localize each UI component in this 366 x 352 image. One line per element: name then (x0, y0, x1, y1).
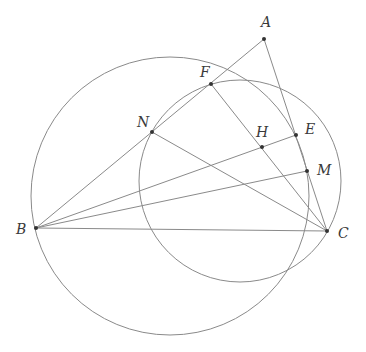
point-C (325, 229, 329, 233)
label-F: F (199, 64, 211, 80)
label-M: M (316, 162, 332, 178)
segment-NC (152, 132, 327, 231)
point-H (260, 145, 264, 149)
point-A (262, 37, 266, 41)
segment-FC (211, 84, 327, 231)
label-B: B (15, 221, 26, 237)
label-H: H (255, 124, 269, 140)
label-A: A (259, 14, 271, 30)
points (34, 37, 329, 233)
segments (36, 39, 327, 231)
point-M (305, 169, 309, 173)
point-B (34, 226, 38, 230)
labels: AFNHEMBC (15, 14, 349, 241)
segment-BA (36, 39, 264, 228)
label-C: C (338, 225, 349, 241)
circle-BNEM (31, 57, 309, 335)
label-N: N (136, 114, 150, 130)
segment-BC (36, 228, 327, 231)
point-E (294, 133, 298, 137)
point-F (209, 82, 213, 86)
geometry-diagram: AFNHEMBC (0, 0, 366, 352)
point-N (150, 130, 154, 134)
label-E: E (304, 121, 315, 137)
